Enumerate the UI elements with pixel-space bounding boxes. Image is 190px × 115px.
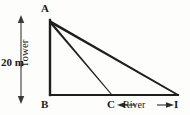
vertex-label-c: C bbox=[107, 99, 115, 110]
vertex-label-i: I bbox=[174, 99, 178, 110]
vertex-label-b: B bbox=[41, 99, 48, 110]
tower-label: Tower bbox=[19, 25, 30, 83]
tower-height-label: 20 m bbox=[1, 57, 24, 68]
line-of-sight-ac bbox=[49, 20, 112, 96]
river-label: River bbox=[123, 100, 145, 110]
vertex-label-a: A bbox=[41, 3, 49, 14]
line-of-sight-ai bbox=[49, 20, 178, 96]
tower-and-river-diagram: A B C I Tower 20 m River bbox=[0, 0, 190, 115]
